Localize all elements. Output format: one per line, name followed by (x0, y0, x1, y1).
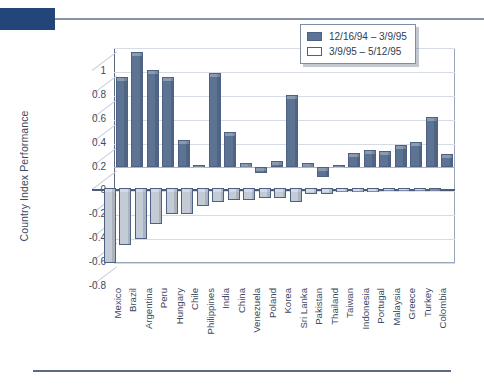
bar-series-1 (162, 77, 174, 168)
bar-series-1 (240, 163, 252, 168)
bar-series-1 (147, 70, 159, 168)
legend-item: 12/16/94 – 3/9/95 (307, 29, 407, 44)
bar-series-1 (302, 163, 314, 168)
bar-series-2 (119, 188, 131, 245)
bar-series-2 (321, 188, 333, 194)
bar-series-2 (228, 188, 240, 200)
legend-label-series-2: 3/9/95 – 5/12/95 (329, 46, 401, 57)
bar-series-2 (429, 188, 441, 190)
x-axis-category-label: Greece (406, 288, 417, 319)
bar-series-2 (135, 188, 147, 239)
x-axis-category-label: China (236, 288, 247, 313)
y-axis-tick-label: 1 (100, 65, 106, 76)
bar-series-1 (209, 73, 221, 167)
x-axis-category-label: Indonesia (360, 288, 371, 330)
bar-series-1 (116, 77, 128, 168)
bar-series-2 (383, 188, 395, 192)
x-axis-category-label: India (220, 288, 231, 309)
x-axis-category-label: Mexico (112, 288, 123, 318)
bar-series-1 (395, 145, 407, 168)
bar-series-2 (274, 188, 286, 199)
bar-series-2 (166, 188, 178, 214)
x-axis-category-label: Brazil (127, 288, 138, 312)
country-index-performance-chart: Country Index Performance 10.80.60.40.20… (0, 20, 484, 370)
x-axis-category-label: Turkey (422, 288, 433, 317)
bar-series-1 (178, 140, 190, 167)
x-axis-category-label: Philippines (205, 288, 216, 334)
bar-series-1 (426, 117, 438, 167)
y-axis-tick-label: 0.2 (92, 160, 106, 171)
legend-swatch-series-1 (307, 32, 322, 41)
y-axis-tick-label: 0.6 (92, 112, 106, 123)
bar-series-1 (410, 142, 422, 167)
x-axis-category-label: Taiwan (344, 288, 355, 318)
bar-series-2 (150, 188, 162, 224)
gridline (114, 72, 455, 73)
bar-series-1 (271, 161, 283, 167)
x-axis-category-label: Peru (158, 288, 169, 308)
x-axis-category-label: Colombia (437, 288, 448, 329)
bar-series-2 (336, 188, 348, 193)
legend-swatch-series-2 (307, 47, 322, 56)
bar-series-1 (317, 167, 329, 177)
bar-series-1 (441, 154, 453, 167)
y-axis-tick-label: 0.4 (92, 136, 106, 147)
bar-series-2 (259, 188, 271, 199)
bar-series-1 (286, 95, 298, 168)
bar-series-2 (305, 188, 317, 194)
bar-series-2 (352, 188, 364, 193)
x-axis-category-label: Korea (282, 288, 293, 314)
bar-series-2 (398, 188, 410, 192)
x-axis-category-label: Thailand (329, 288, 340, 325)
gridline (114, 239, 455, 240)
bar-series-2 (212, 188, 224, 202)
x-axis-category-label: Pakistan (313, 288, 324, 325)
bar-series-2 (181, 188, 193, 214)
bar-series-1 (255, 167, 267, 173)
x-axis-category-label: Chile (189, 288, 200, 310)
bottom-horizontal-rule (33, 370, 451, 372)
bar-series-2 (290, 188, 302, 202)
bar-series-1 (379, 151, 391, 168)
gridline (114, 167, 455, 168)
plot-area: 10.80.60.40.20-0.2-0.4-0.6-0.8 (92, 48, 455, 285)
bar-series-1 (364, 150, 376, 168)
x-axis-category-label: Argentina (143, 288, 154, 329)
bar-series-2 (414, 188, 426, 192)
x-axis-category-label: Poland (267, 288, 278, 318)
bar-series-1 (193, 165, 205, 167)
legend-item: 3/9/95 – 5/12/95 (307, 44, 407, 59)
y-axis-title: Country Index Performance (18, 76, 30, 276)
y-axis-tick-label: 0.8 (92, 88, 106, 99)
x-axis-category-label: Portugal (375, 288, 386, 324)
gridline (114, 263, 455, 264)
x-axis-category-labels: MexicoBrazilArgentinaPeruHungaryChilePhi… (92, 288, 455, 366)
bar-series-2 (104, 188, 116, 263)
bar-series-2 (197, 188, 209, 206)
chart-legend: 12/16/94 – 3/9/95 3/9/95 – 5/12/95 (300, 24, 416, 64)
bar-series-1 (131, 52, 143, 168)
bar-series-2 (367, 188, 379, 193)
x-axis-category-label: Venezuela (251, 288, 262, 333)
x-axis-category-label: Hungary (174, 288, 185, 324)
gridline (114, 215, 455, 216)
bar-series-1 (224, 132, 236, 168)
x-axis-category-label: Sri Lanka (298, 288, 309, 329)
x-axis-category-label: Malaysia (391, 288, 402, 326)
legend-label-series-1: 12/16/94 – 3/9/95 (329, 31, 407, 42)
bar-series-2 (243, 188, 255, 200)
bar-series-1 (348, 153, 360, 167)
bar-series-1 (333, 165, 345, 167)
